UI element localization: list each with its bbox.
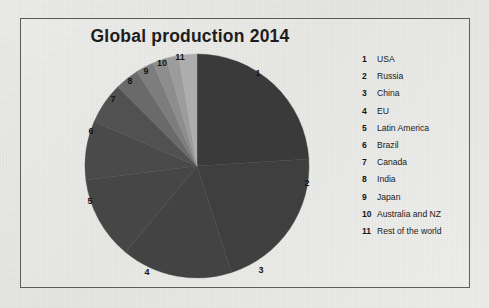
- legend-item-label: Japan: [377, 193, 400, 202]
- legend-item-6: 6Brazil: [362, 141, 468, 150]
- legend-item-8: 8India: [362, 175, 468, 184]
- pie-slice-number-7: 7: [110, 94, 115, 104]
- legend-item-2: 2Russia: [362, 72, 468, 81]
- legend-item-1: 1USA: [362, 55, 468, 64]
- pie-slice-number-1: 1: [255, 68, 260, 78]
- legend-item-number: 1: [362, 55, 377, 64]
- pie-slice-number-10: 10: [157, 58, 167, 68]
- legend-item-number: 5: [362, 124, 377, 133]
- pie-slice-number-3: 3: [258, 265, 263, 275]
- legend-item-label: Canada: [377, 158, 407, 167]
- legend-item-number: 4: [362, 107, 377, 116]
- legend-item-number: 6: [362, 141, 377, 150]
- legend-item-number: 7: [362, 158, 377, 167]
- legend-item-number: 11: [362, 227, 377, 236]
- pie-chart-svg: [20, 18, 360, 288]
- legend-item-label: Rest of the world: [377, 227, 441, 236]
- pie-slice-1: [197, 54, 309, 166]
- legend-item-3: 3China: [362, 89, 468, 98]
- legend-item-9: 9Japan: [362, 193, 468, 202]
- legend-item-label: Russia: [377, 72, 403, 81]
- legend-item-label: USA: [377, 55, 395, 64]
- pie-slice-number-4: 4: [144, 267, 149, 277]
- legend-item-number: 8: [362, 175, 377, 184]
- legend-item-number: 10: [362, 210, 377, 219]
- legend-item-label: Latin America: [377, 124, 429, 133]
- legend-item-4: 4EU: [362, 107, 468, 116]
- pie-slice-number-6: 6: [88, 126, 93, 136]
- legend-item-label: Brazil: [377, 141, 399, 150]
- legend-item-label: Australia and NZ: [377, 210, 441, 219]
- legend-item-label: China: [377, 89, 399, 98]
- pie-slice-number-8: 8: [127, 76, 132, 86]
- pie-chart-area: 1234567891011: [20, 18, 360, 288]
- legend-item-11: 11Rest of the world: [362, 227, 468, 236]
- pie-slice-number-2: 2: [304, 178, 309, 188]
- pie-slice-group: [85, 54, 309, 278]
- legend-item-number: 2: [362, 72, 377, 81]
- pie-slice-number-9: 9: [143, 66, 148, 76]
- legend-item-10: 10Australia and NZ: [362, 210, 468, 219]
- legend-item-7: 7Canada: [362, 158, 468, 167]
- pie-slice-number-5: 5: [87, 196, 92, 206]
- legend-item-label: India: [377, 175, 396, 184]
- chart-legend: 1USA2Russia3China4EU5Latin America6Brazi…: [362, 55, 468, 244]
- legend-item-5: 5Latin America: [362, 124, 468, 133]
- legend-item-number: 9: [362, 193, 377, 202]
- legend-item-number: 3: [362, 89, 377, 98]
- pie-slice-number-11: 11: [175, 52, 185, 62]
- legend-item-label: EU: [377, 107, 389, 116]
